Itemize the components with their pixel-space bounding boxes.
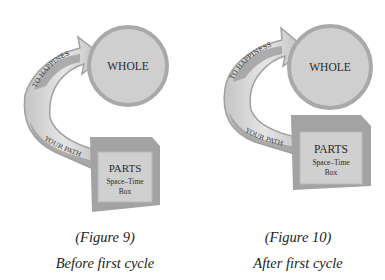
whole-label: WHOLE	[107, 60, 149, 72]
figure-9-caption-text: Before first cycle	[10, 256, 200, 271]
figure-9-diagram: TO HAPPINES YOUR PATH WHOLE PARTS Space–…	[0, 0, 190, 225]
parts-box: PARTS Space–Time Box	[90, 137, 160, 212]
figure-9-caption-number: (Figure 9)	[10, 230, 200, 245]
box-line2: Box	[119, 187, 132, 196]
whole-label: WHOLE	[309, 61, 351, 73]
whole-circle: WHOLE	[289, 26, 371, 108]
whole-circle: WHOLE	[89, 27, 167, 105]
figure-9: TO HAPPINES YOUR PATH WHOLE PARTS Space–…	[0, 0, 190, 225]
figure-10-caption-number: (Figure 10)	[203, 230, 385, 245]
box-line1: Space–Time	[106, 177, 144, 186]
figure-10-diagram: TO HAPPINESS YOUR PATH WHOLE PARTS Space…	[195, 0, 385, 225]
box-line2: Box	[325, 168, 338, 177]
box-title: PARTS	[109, 162, 142, 174]
parts-box: PARTS Space–Time Box	[291, 115, 371, 190]
box-line1: Space–Time	[312, 158, 350, 167]
figure-10-caption-text: After first cycle	[203, 256, 385, 271]
figure-10: TO HAPPINESS YOUR PATH WHOLE PARTS Space…	[195, 0, 385, 225]
box-title: PARTS	[314, 143, 348, 155]
